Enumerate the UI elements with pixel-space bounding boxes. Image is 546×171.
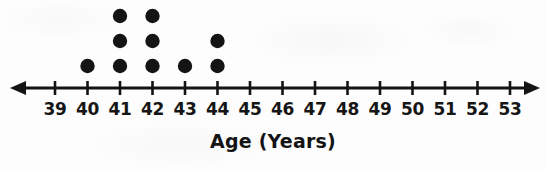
dot-41-2 <box>113 34 127 48</box>
dot-42-3 <box>145 9 159 23</box>
dot-plot-figure: 394041424344454647484950515253 Age (Year… <box>0 0 546 171</box>
x-axis-title: Age (Years) <box>0 130 546 152</box>
dot-42-2 <box>145 34 159 48</box>
tick-label-53: 53 <box>490 99 530 119</box>
dot-43-1 <box>178 59 192 73</box>
axis-arrow-right <box>524 81 540 95</box>
number-line-axis <box>10 81 540 95</box>
dot-41-1 <box>113 59 127 73</box>
axis-arrow-left <box>10 81 26 95</box>
dot-44-1 <box>210 59 224 73</box>
dot-40-1 <box>80 59 94 73</box>
dot-42-1 <box>145 59 159 73</box>
dot-44-2 <box>210 34 224 48</box>
data-dots <box>80 9 224 73</box>
dot-41-3 <box>113 9 127 23</box>
